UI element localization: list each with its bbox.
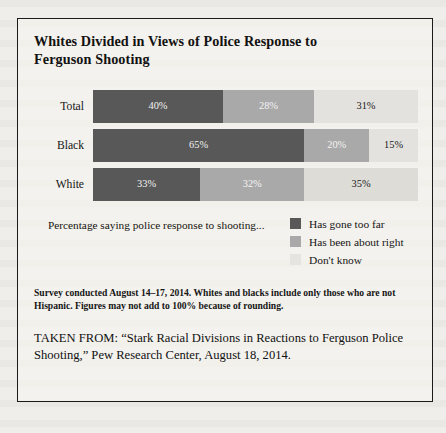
legend-item-list: Has gone too far Has been about right Do…	[284, 218, 418, 272]
bar-segment-about-right: 32%	[200, 168, 304, 201]
legend-item-about-right: Has been about right	[290, 236, 418, 248]
stacked-bar-chart: Total 40% 28% 31% Black 65% 20% 15% Whit…	[32, 90, 418, 201]
table-row: White 33% 32% 35%	[32, 168, 418, 201]
bar-segment-dont-know: 31%	[314, 90, 418, 123]
bar-label-total: Total	[32, 100, 93, 113]
bar-label-black: Black	[32, 139, 93, 152]
bar-segment-about-right: 28%	[223, 90, 314, 123]
legend-label: Don't know	[309, 254, 362, 266]
legend-item-too-far: Has gone too far	[290, 218, 418, 230]
legend-label: Has gone too far	[309, 218, 385, 230]
legend-swatch-icon	[290, 236, 301, 247]
bar-track-white: 33% 32% 35%	[93, 168, 418, 201]
table-row: Black 65% 20% 15%	[32, 129, 418, 162]
legend-caption: Percentage saying police response to sho…	[48, 218, 284, 231]
figure-frame: Whites Divided in Views of Police Respon…	[17, 18, 433, 402]
legend-item-dont-know: Don't know	[290, 254, 418, 266]
bar-segment-dont-know: 15%	[369, 129, 418, 162]
chart-title: Whites Divided in Views of Police Respon…	[34, 33, 374, 69]
bar-segment-too-far: 40%	[93, 90, 223, 123]
legend-swatch-icon	[290, 218, 301, 229]
bar-track-total: 40% 28% 31%	[93, 90, 418, 123]
bar-segment-dont-know: 35%	[304, 168, 418, 201]
chart-legend: Percentage saying police response to sho…	[32, 218, 418, 272]
bar-label-white: White	[32, 178, 93, 191]
bar-track-black: 65% 20% 15%	[93, 129, 418, 162]
survey-note: Survey conducted August 14–17, 2014. Whi…	[32, 286, 412, 313]
bar-segment-too-far: 65%	[93, 129, 304, 162]
bar-segment-about-right: 20%	[304, 129, 369, 162]
legend-swatch-icon	[290, 254, 301, 265]
legend-label: Has been about right	[309, 236, 404, 248]
bar-segment-too-far: 33%	[93, 168, 200, 201]
table-row: Total 40% 28% 31%	[32, 90, 418, 123]
source-attribution: TAKEN FROM: “Stark Racial Divisions in R…	[32, 330, 418, 364]
